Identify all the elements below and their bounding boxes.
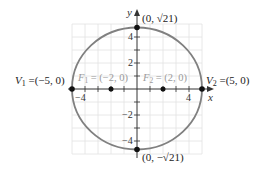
tick-label-x-4: 4: [186, 92, 191, 103]
tick-label-y-2: 2: [128, 57, 133, 68]
covertex-top-point: [134, 25, 140, 31]
ellipse-diagram: −4 4 4 2 −2 −4 x y V1 =(−5, 0) V2 =(5, 0…: [0, 0, 263, 174]
vertex-v1-point: [69, 86, 75, 92]
focus-f2-label: F2 = (2, 0): [142, 72, 188, 85]
vertex-v1-label: V1 =(−5, 0): [15, 74, 65, 88]
tick-label-x-neg4: −4: [75, 92, 86, 103]
focus-f2-point: [161, 87, 166, 92]
vertex-v2-label: V2 =(5, 0): [206, 74, 250, 88]
vertex-v2-point: [199, 86, 205, 92]
tick-label-y-neg4: −4: [122, 135, 133, 146]
x-axis: [68, 86, 214, 92]
covertex-bottom-label: (0, −√21): [142, 151, 184, 164]
tick-label-y-neg2: −2: [122, 109, 133, 120]
tick-label-y-4: 4: [128, 31, 133, 42]
covertex-top-label: (0, √21): [142, 12, 178, 25]
y-axis-label: y: [126, 6, 132, 18]
x-axis-label: x: [207, 91, 213, 103]
focus-f1-point: [109, 87, 114, 92]
covertex-bottom-point: [134, 147, 140, 153]
y-axis: [134, 9, 140, 158]
y-axis-arrow-icon: [134, 9, 140, 16]
